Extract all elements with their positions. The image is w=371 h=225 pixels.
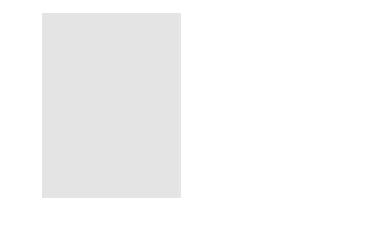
growth-chart xyxy=(0,0,371,225)
figure-panel xyxy=(42,13,178,198)
plot-area-right xyxy=(178,13,181,198)
